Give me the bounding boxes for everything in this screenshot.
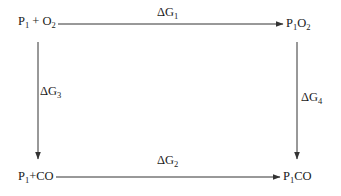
node-p1o2: P1O2 — [286, 17, 310, 32]
edge-label-dg3: ΔG3 — [40, 85, 61, 100]
node-text: +CO — [29, 169, 53, 183]
node-text: P — [286, 16, 293, 30]
delta-g-sub: 3 — [57, 90, 61, 100]
node-p1co: P1CO — [283, 170, 312, 185]
delta-g-text: ΔG — [157, 153, 174, 167]
delta-g-text: ΔG — [301, 90, 318, 104]
node-text: P — [283, 169, 290, 183]
node-text: P — [18, 169, 25, 183]
delta-g-text: ΔG — [40, 84, 57, 98]
node-sub: 2 — [306, 22, 310, 32]
delta-g-text: ΔG — [157, 5, 174, 19]
edge-label-dg1: ΔG1 — [157, 6, 178, 21]
edge-label-dg2: ΔG2 — [157, 154, 178, 169]
delta-g-sub: 1 — [174, 11, 178, 21]
node-text: O — [297, 16, 306, 30]
node-text: CO — [294, 169, 311, 183]
node-text: + O — [29, 14, 51, 28]
edge-label-dg4: ΔG4 — [301, 91, 322, 106]
node-p1-plus-o2: P1 + O2 — [18, 15, 56, 30]
delta-g-sub: 2 — [174, 159, 178, 169]
delta-g-sub: 4 — [318, 96, 322, 106]
node-p1-plus-co: P1+CO — [18, 170, 54, 185]
node-sub: 2 — [52, 20, 56, 30]
node-text: P — [18, 14, 25, 28]
